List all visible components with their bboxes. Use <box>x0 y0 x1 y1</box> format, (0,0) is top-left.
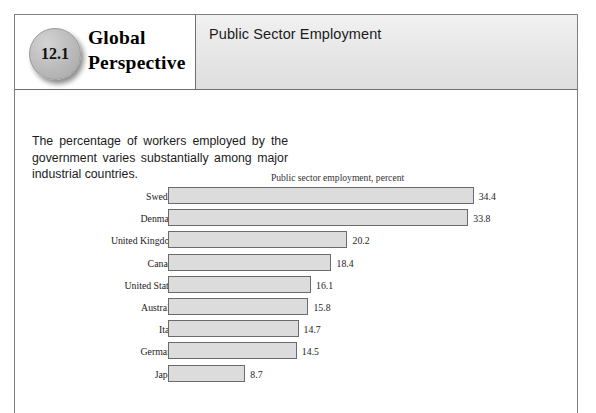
bar <box>168 342 297 359</box>
bar-category-label: Canada <box>57 258 177 269</box>
bar <box>168 231 347 248</box>
bar-category-label: United Kingdom <box>57 235 177 246</box>
bar-value-label: 14.5 <box>302 346 319 357</box>
bar-value-label: 34.4 <box>479 191 496 202</box>
exhibit-number-label: 12.1 <box>41 45 69 63</box>
exhibit-number-badge: 12.1 <box>29 28 81 80</box>
bar-row: Sweden34.4 <box>15 186 579 208</box>
bar-value-label: 16.1 <box>316 280 333 291</box>
bar-row: Denmark33.8 <box>15 208 579 230</box>
bar-value-label: 18.4 <box>336 258 353 269</box>
bar <box>168 320 299 337</box>
exhibit-header: 12.1 Global Perspective Public Sector Em… <box>15 15 577 90</box>
bar <box>168 276 311 293</box>
bar-value-label: 14.7 <box>304 324 321 335</box>
bar-category-label: Australia <box>57 302 177 313</box>
chart-title: Public sector employment, percent <box>182 172 493 183</box>
bar-row: Italy14.7 <box>15 319 579 341</box>
bar-row: Australia15.8 <box>15 297 579 319</box>
bar-chart: Public sector employment, percent Sweden… <box>15 90 577 413</box>
bar-row: Canada18.4 <box>15 253 579 275</box>
bar-row: Germany14.5 <box>15 341 579 363</box>
bar <box>168 187 474 204</box>
bar-category-label: United States <box>57 280 177 291</box>
exhibit-figure-box: 12.1 Global Perspective Public Sector Em… <box>14 14 578 413</box>
bar <box>168 298 308 315</box>
bar-category-label: Japan <box>57 369 177 380</box>
bar-value-label: 33.8 <box>473 213 490 224</box>
bar <box>168 365 245 382</box>
bar-category-label: Sweden <box>57 191 177 202</box>
brand-title-line-2: Perspective <box>88 50 185 75</box>
exhibit-title-cell: Public Sector Employment <box>196 15 577 89</box>
bar-row: United Kingdom20.2 <box>15 230 579 252</box>
brand-title-line-1: Global <box>88 27 146 48</box>
bar <box>168 254 331 271</box>
bar-value-label: 15.8 <box>313 302 330 313</box>
page-title: Public Sector Employment <box>209 26 381 42</box>
bar-row: United States16.1 <box>15 275 579 297</box>
bar-category-label: Denmark <box>57 213 177 224</box>
exhibit-brand-cell: 12.1 Global Perspective <box>15 15 196 89</box>
chart-plot-area: Sweden34.4Denmark33.8United Kingdom20.2C… <box>15 186 579 386</box>
bar <box>168 209 468 226</box>
bar-row: Japan8.7 <box>15 364 579 386</box>
bar-value-label: 20.2 <box>352 235 369 246</box>
bar-category-label: Germany <box>57 346 177 357</box>
exhibit-body: The percentage of workers employed by th… <box>15 90 577 413</box>
bar-category-label: Italy <box>57 324 177 335</box>
bar-value-label: 8.7 <box>250 369 262 380</box>
exhibit-brand-title: Global Perspective <box>88 25 185 75</box>
